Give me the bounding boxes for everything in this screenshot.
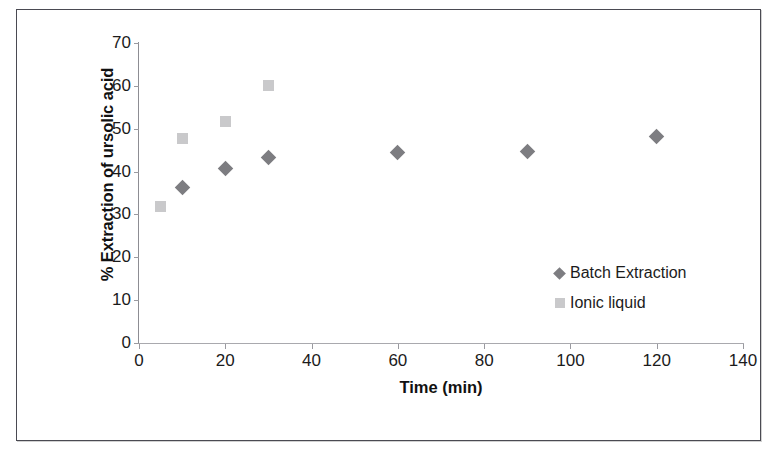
y-axis-tick-label: 50 xyxy=(91,119,131,139)
data-point-marker[interactable] xyxy=(520,144,536,160)
data-point-marker[interactable] xyxy=(390,145,406,161)
legend-square-icon xyxy=(555,298,565,308)
x-axis-tick-label: 40 xyxy=(282,351,342,371)
x-axis-tick-mark xyxy=(312,344,313,349)
data-point-marker[interactable] xyxy=(155,201,166,212)
x-axis-tick-mark xyxy=(398,344,399,349)
figure-frame: % Extraction of ursolic acid 01020304050… xyxy=(16,9,761,441)
y-axis-tick-label: 30 xyxy=(91,204,131,224)
x-axis-tick-mark xyxy=(743,344,744,349)
x-axis-title: Time (min) xyxy=(139,378,743,397)
y-axis-tick-label: 10 xyxy=(91,290,131,310)
legend-item-label: Ionic liquid xyxy=(570,294,646,312)
data-point-marker[interactable] xyxy=(263,80,274,91)
x-axis-tick-label: 20 xyxy=(195,351,255,371)
legend-diamond-icon xyxy=(553,267,566,280)
figure-page: % Extraction of ursolic acid 01020304050… xyxy=(0,0,777,455)
x-axis-tick-mark xyxy=(225,344,226,349)
legend-item[interactable]: Ionic liquid xyxy=(555,288,765,318)
chart-legend: Batch ExtractionIonic liquid xyxy=(555,258,765,318)
x-axis-tick-label: 0 xyxy=(109,351,169,371)
y-axis-tick-label: 40 xyxy=(91,162,131,182)
data-point-marker[interactable] xyxy=(261,150,277,166)
x-axis-tick-label: 140 xyxy=(713,351,773,371)
data-point-marker[interactable] xyxy=(649,129,665,145)
legend-item[interactable]: Batch Extraction xyxy=(555,258,765,288)
x-axis-tick-mark xyxy=(657,344,658,349)
y-axis-tick-label: 0 xyxy=(91,333,131,353)
x-axis-tick-mark xyxy=(570,344,571,349)
x-axis-tick-label: 60 xyxy=(368,351,428,371)
y-axis-tick-label: 60 xyxy=(91,76,131,96)
data-point-marker[interactable] xyxy=(220,116,231,127)
x-axis-tick-label: 100 xyxy=(540,351,600,371)
x-axis-line xyxy=(138,343,744,344)
data-point-marker[interactable] xyxy=(218,160,234,176)
x-axis-tick-label: 80 xyxy=(454,351,514,371)
x-axis-tick-label: 120 xyxy=(627,351,687,371)
y-axis-tick-label: 20 xyxy=(91,247,131,267)
x-axis-tick-mark xyxy=(484,344,485,349)
x-axis-tick-mark xyxy=(139,344,140,349)
legend-item-label: Batch Extraction xyxy=(570,264,687,282)
data-point-marker[interactable] xyxy=(174,180,190,196)
data-point-marker[interactable] xyxy=(177,133,188,144)
y-axis-tick-label: 70 xyxy=(91,33,131,53)
